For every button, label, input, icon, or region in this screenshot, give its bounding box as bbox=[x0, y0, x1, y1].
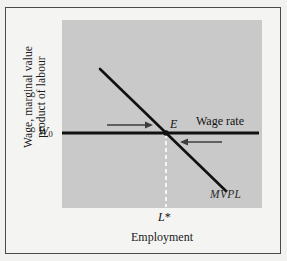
wage-level-subscript: 0 bbox=[48, 129, 52, 139]
wage-rate-curve-label: Wage rate bbox=[196, 114, 244, 129]
wage-level-label: W0 bbox=[38, 124, 53, 139]
y-axis-label: Wage, marginal value product of labour bbox=[22, 31, 48, 163]
y-axis-label-line1: Wage, marginal value bbox=[22, 31, 35, 163]
equilibrium-point-label: E bbox=[170, 117, 177, 132]
equilibrium-employment-label: L* bbox=[158, 210, 171, 225]
equilibrium-employment-star: * bbox=[165, 210, 171, 224]
x-axis-label: Employment bbox=[62, 230, 262, 245]
equilibrium-employment-symbol: L bbox=[158, 210, 165, 224]
wage-level-symbol: W bbox=[38, 124, 48, 138]
y-axis-label-line2: product of labour bbox=[35, 31, 48, 163]
mvpl-curve-label: MVPL bbox=[210, 188, 241, 200]
figure-root: Wage, marginal value product of labour W… bbox=[0, 0, 287, 261]
